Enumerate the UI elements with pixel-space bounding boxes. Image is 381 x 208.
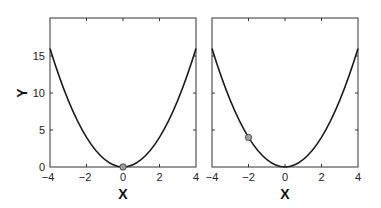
left-xtick-2: 2 <box>156 171 162 183</box>
right-parabola-curve <box>212 49 358 167</box>
right-xtick-4: 4 <box>355 171 361 183</box>
left-xtick-neg4: −4 <box>42 171 55 183</box>
right-xtick-neg2: −2 <box>242 171 255 183</box>
left-marker-point <box>120 164 126 170</box>
right-plot-frame <box>212 18 358 167</box>
figure: 0 5 10 15 −4 −2 0 2 4 X Y <box>0 0 381 208</box>
left-plot: 0 5 10 15 −4 −2 0 2 4 X Y <box>14 18 199 202</box>
right-plot: −4 −2 0 2 4 X <box>206 18 361 202</box>
right-xtick-0: 0 <box>282 171 288 183</box>
right-xtick-2: 2 <box>318 171 324 183</box>
left-parabola-curve <box>50 49 196 167</box>
left-xtick-0: 0 <box>120 171 126 183</box>
left-x-axis-label: X <box>118 186 128 202</box>
left-ytick-10: 10 <box>33 87 45 99</box>
left-ytick-5: 5 <box>39 124 45 136</box>
right-marker-point <box>245 134 251 140</box>
left-y-ticks <box>50 56 196 130</box>
right-xtick-neg4: −4 <box>206 171 219 183</box>
left-y-axis-label: Y <box>14 88 30 98</box>
left-plot-frame <box>50 18 196 167</box>
right-x-axis-label: X <box>280 186 290 202</box>
left-ytick-15: 15 <box>33 50 45 62</box>
right-y-ticks <box>212 56 358 130</box>
left-xtick-4: 4 <box>193 171 199 183</box>
left-xtick-neg2: −2 <box>79 171 92 183</box>
